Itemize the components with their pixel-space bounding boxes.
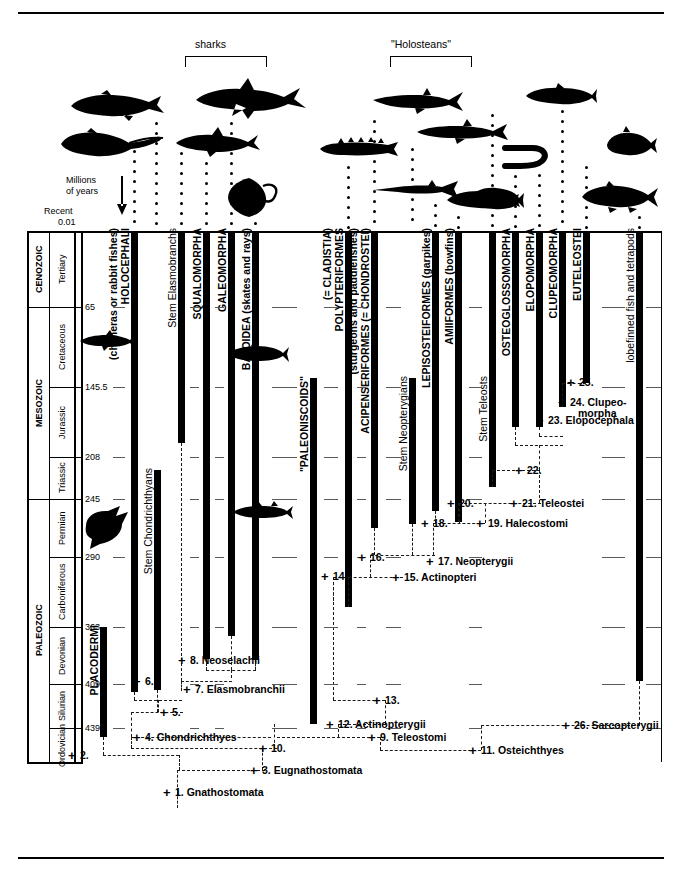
connector-dot: [230, 222, 233, 225]
clade-node-marker: +: [68, 749, 76, 762]
connector-dot: [434, 224, 437, 227]
taxon-range-bar[interactable]: [154, 470, 161, 690]
silhouette-paddlefish: [415, 115, 511, 149]
silhouette-batoidea: [219, 176, 281, 224]
taxon-range-bar[interactable]: [536, 231, 543, 427]
connector-dot: [205, 222, 208, 225]
clade-node-marker: +: [250, 764, 258, 777]
taxon-label: Stem Chondrichthyans: [142, 468, 154, 574]
clade-node-marker: +: [558, 396, 566, 409]
taxon-range-bar[interactable]: [409, 378, 416, 524]
connector-dot: [347, 166, 350, 169]
clade-label: 10.: [271, 742, 286, 754]
taxon-range-bar[interactable]: [371, 231, 378, 528]
taxon-range-bar[interactable]: [228, 231, 235, 636]
epoch-guide-segment: [113, 684, 125, 685]
clade-label: 25.: [579, 376, 594, 388]
clade-label: 13.: [385, 694, 400, 706]
clade-label: 6.: [145, 675, 154, 687]
tick-mark: [74, 684, 83, 685]
taxon-range-bar[interactable]: [559, 231, 566, 407]
taxon-range-bar[interactable]: [203, 231, 210, 659]
silhouette-acanthodii: [231, 500, 295, 528]
taxon-range-bar[interactable]: [636, 231, 643, 681]
epoch-guide-segment: [190, 387, 199, 388]
epoch-guide-segment: [386, 457, 402, 458]
period-label: Carboniferous: [51, 557, 73, 627]
taxon-range-bar[interactable]: [583, 231, 590, 383]
era-label: CENOZOIC: [30, 231, 48, 307]
epoch-guide-segment: [113, 499, 125, 500]
connector-dot: [133, 170, 136, 173]
epoch-guide-segment: [386, 627, 402, 628]
taxon-label: Stem Teleosts: [477, 376, 489, 442]
connector-dot: [491, 114, 494, 117]
connector-dot: [538, 194, 541, 197]
epoch-guide-segment: [324, 684, 338, 685]
epoch-guide-segment: [113, 557, 125, 558]
tick-mark: [74, 387, 83, 388]
taxon-range-bar[interactable]: [131, 231, 138, 692]
epoch-guide-segment: [272, 499, 298, 500]
clade-label: 3. Eugnathostomata: [262, 764, 362, 776]
tick-mark: [74, 499, 83, 500]
period-divider: [49, 684, 74, 685]
connector-dot: [373, 190, 376, 193]
tick-label: 290: [85, 552, 100, 562]
connector-dot: [411, 188, 414, 191]
scale-left-rule: [27, 231, 29, 762]
taxon-range-bar[interactable]: [252, 231, 259, 660]
connector-dot: [347, 186, 350, 189]
connector-dot: [205, 172, 208, 175]
clade-node-marker: +: [567, 376, 575, 389]
connector-dot: [230, 182, 233, 185]
epoch-guide-segment: [190, 457, 199, 458]
taxon-sublabel: (sturgeons and paddlefishes): [347, 228, 359, 374]
taxon-range-bar[interactable]: [455, 231, 462, 522]
connector-dot: [514, 225, 517, 228]
taxon-range-bar[interactable]: [432, 231, 439, 511]
connector-dot: [230, 142, 233, 145]
epoch-guide-segment: [272, 627, 298, 628]
period-label: Triassic: [51, 457, 73, 499]
taxon-range-bar[interactable]: [310, 378, 317, 724]
clade-label: 18.: [433, 517, 448, 529]
clade-node-marker: +: [515, 464, 523, 477]
connector-dot: [457, 226, 460, 229]
connector-dot: [411, 158, 414, 161]
connector-dot: [491, 164, 494, 167]
connector-dot: [373, 120, 376, 123]
epoch-guide-segment: [190, 307, 199, 308]
epoch-guide-segment: [469, 728, 483, 729]
taxon-range-bar[interactable]: [489, 231, 496, 487]
silhouette-elopomorpha: [502, 143, 554, 175]
clade-node-marker: +: [392, 571, 400, 584]
epoch-guide-segment: [469, 684, 483, 685]
connector-dot: [347, 176, 350, 179]
connector-dot: [205, 182, 208, 185]
axis-arrow-icon: [117, 176, 127, 220]
epoch-guide-segment: [272, 557, 298, 558]
silhouette-placodermi: [76, 504, 130, 554]
period-label: Tertiary: [51, 231, 73, 307]
taxon-range-bar[interactable]: [178, 231, 185, 443]
taxon-range-bar[interactable]: [100, 627, 107, 737]
era-divider: [27, 307, 49, 308]
epoch-guide-segment: [386, 307, 402, 308]
connector-dot: [638, 216, 641, 219]
taxon-label: EUTELEOSTEI: [571, 228, 583, 301]
epoch-guide-segment: [272, 307, 298, 308]
tick-mark: [74, 457, 83, 458]
connector-dot: [230, 152, 233, 155]
epoch-guide-segment: [190, 728, 199, 729]
connector-dot: [155, 152, 158, 155]
connector-dot: [230, 202, 233, 205]
connector-dot: [373, 180, 376, 183]
taxon-range-bar[interactable]: [512, 231, 519, 427]
epoch-guide-segment: [113, 457, 125, 458]
connector-dot: [230, 132, 233, 135]
connector-dot: [230, 212, 233, 215]
connector-dot: [585, 216, 588, 219]
era-label: PALEOZOIC: [30, 499, 48, 762]
connector-dot: [585, 186, 588, 189]
